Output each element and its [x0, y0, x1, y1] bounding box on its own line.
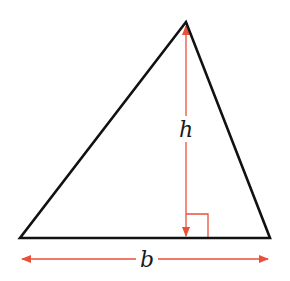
right-angle-marker: [186, 214, 208, 238]
triangle-shape: [20, 22, 270, 238]
diagram-svg: h b: [0, 0, 290, 281]
height-label: h: [179, 117, 193, 142]
triangle-diagram: h b: [0, 0, 290, 281]
base-label: b: [140, 247, 154, 272]
